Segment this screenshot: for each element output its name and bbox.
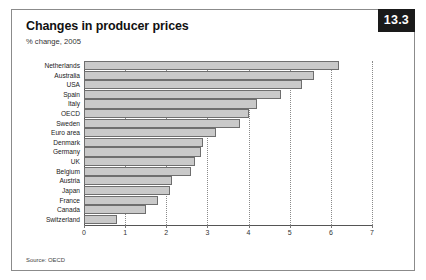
plot-area: 01234567 NetherlandsAustraliaUSASpainIta… — [12, 57, 414, 270]
bar-track — [84, 128, 372, 137]
category-label: Euro area — [26, 128, 80, 137]
bar — [84, 215, 117, 224]
bar — [84, 71, 314, 80]
bar-row: Denmark — [26, 138, 400, 147]
category-label: Denmark — [26, 138, 80, 147]
bar — [84, 186, 170, 195]
bar — [84, 157, 195, 166]
category-label: Canada — [26, 205, 80, 214]
tick-mark-6 — [331, 225, 332, 228]
x-tick-label: 5 — [288, 229, 292, 236]
category-label: USA — [26, 80, 80, 89]
category-label: Austria — [26, 176, 80, 185]
bar-track — [84, 109, 372, 118]
bar-track — [84, 157, 372, 166]
x-tick-label: 4 — [247, 229, 251, 236]
x-tick-label: 7 — [370, 229, 374, 236]
bar-row: Euro area — [26, 128, 400, 137]
category-label: Australia — [26, 71, 80, 80]
bar-row: Germany — [26, 147, 400, 156]
x-tick-label: 6 — [329, 229, 333, 236]
tick-mark-2 — [166, 225, 167, 228]
bar — [84, 99, 257, 108]
bar-row: USA — [26, 80, 400, 89]
bar-row: UK — [26, 157, 400, 166]
bar-track — [84, 147, 372, 156]
x-tick-label: 3 — [205, 229, 209, 236]
tick-mark-7 — [372, 225, 373, 228]
bar-row: Belgium — [26, 167, 400, 176]
bar — [84, 128, 216, 137]
bar — [84, 90, 281, 99]
bar — [84, 205, 146, 214]
bar-row: Japan — [26, 186, 400, 195]
tick-mark-0 — [84, 225, 85, 228]
bar — [84, 80, 302, 89]
category-label: UK — [26, 157, 80, 166]
tick-mark-4 — [249, 225, 250, 228]
bar-row: Australia — [26, 71, 400, 80]
bar-row: Spain — [26, 90, 400, 99]
category-label: Italy — [26, 99, 80, 108]
bar-track — [84, 205, 372, 214]
chart-frame: 13.3 Changes in producer prices % change… — [11, 9, 415, 271]
chart-header: Changes in producer prices % change, 200… — [26, 20, 189, 46]
category-label: Switzerland — [26, 215, 80, 224]
chart-figure: 13.3 Changes in producer prices % change… — [0, 0, 426, 280]
bar-track — [84, 176, 372, 185]
bar-track — [84, 186, 372, 195]
bar-track — [84, 61, 372, 70]
x-tick-label: 1 — [123, 229, 127, 236]
bar-row: Italy — [26, 99, 400, 108]
bar — [84, 176, 172, 185]
category-label: Germany — [26, 147, 80, 156]
bar-row: Austria — [26, 176, 400, 185]
bar-track — [84, 71, 372, 80]
bar-track — [84, 80, 372, 89]
category-label: France — [26, 196, 80, 205]
bar-track — [84, 138, 372, 147]
tick-mark-3 — [207, 225, 208, 228]
chapter-badge: 13.3 — [378, 9, 415, 32]
bar-row: OECD — [26, 109, 400, 118]
bar — [84, 147, 201, 156]
bar-row: Switzerland — [26, 215, 400, 224]
bar — [84, 109, 249, 118]
bar — [84, 196, 158, 205]
bar-row: Canada — [26, 205, 400, 214]
source-note: Source: OECD — [26, 257, 65, 263]
category-label: Japan — [26, 186, 80, 195]
bar-row: Netherlands — [26, 61, 400, 70]
bar-track — [84, 119, 372, 128]
x-tick-label: 2 — [164, 229, 168, 236]
chart-title: Changes in producer prices — [26, 20, 189, 34]
tick-mark-5 — [290, 225, 291, 228]
bar-row: Sweden — [26, 119, 400, 128]
x-axis-ticks: 01234567 — [84, 225, 372, 241]
bar — [84, 119, 240, 128]
bar-track — [84, 90, 372, 99]
category-label: Netherlands — [26, 61, 80, 70]
bar-track — [84, 215, 372, 224]
bar — [84, 61, 339, 70]
bar-row: France — [26, 196, 400, 205]
bar-rows: NetherlandsAustraliaUSASpainItalyOECDSwe… — [26, 61, 400, 221]
bar — [84, 138, 203, 147]
x-tick-label: 0 — [82, 229, 86, 236]
category-label: Spain — [26, 90, 80, 99]
chart-subtitle: % change, 2005 — [26, 37, 189, 46]
category-label: Belgium — [26, 167, 80, 176]
category-label: Sweden — [26, 119, 80, 128]
bar — [84, 167, 191, 176]
bar-track — [84, 196, 372, 205]
tick-mark-1 — [125, 225, 126, 228]
bar-track — [84, 99, 372, 108]
bar-track — [84, 167, 372, 176]
category-label: OECD — [26, 109, 80, 118]
